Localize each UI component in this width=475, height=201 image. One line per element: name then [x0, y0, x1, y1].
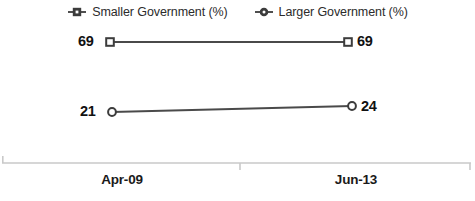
chart-plot-area: [0, 0, 475, 201]
value-label-larger-government-apr-09: 21: [80, 103, 96, 119]
data-point-larger-government-apr-09[interactable]: [108, 108, 116, 116]
series-line-larger-government: [112, 106, 352, 112]
series-larger-government: [108, 102, 356, 116]
x-axis-label-jun-13: Jun-13: [316, 172, 396, 187]
data-point-smaller-government-apr-09[interactable]: [106, 38, 114, 46]
x-axis: [2, 156, 471, 170]
data-point-larger-government-jun-13[interactable]: [348, 102, 356, 110]
value-label-smaller-government-jun-13: 69: [357, 33, 373, 49]
value-label-smaller-government-apr-09: 69: [78, 33, 94, 49]
chart-container: Smaller Government (%) Larger Government…: [0, 0, 475, 201]
value-label-larger-government-jun-13: 24: [361, 98, 377, 114]
x-axis-label-apr-09: Apr-09: [82, 172, 162, 187]
data-point-smaller-government-jun-13[interactable]: [344, 38, 352, 46]
series-smaller-government: [106, 38, 352, 46]
